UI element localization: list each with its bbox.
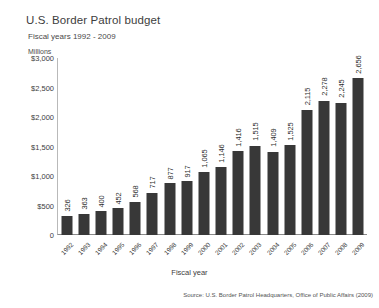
x-tick-slot: 1996 (127, 236, 144, 266)
x-tick-slot: 2005 (281, 236, 298, 266)
bar (130, 202, 141, 236)
x-axis-tick: 2005 (282, 241, 297, 256)
bar (250, 146, 261, 235)
x-tick-slot: 1998 (161, 236, 178, 266)
bar-slot: 400 (92, 58, 109, 235)
x-tick-slot: 2003 (247, 236, 264, 266)
bar (336, 103, 347, 235)
bar-value-label: 1,525 (285, 122, 294, 140)
bar (181, 181, 192, 235)
x-tick-slot: 2007 (316, 236, 333, 266)
x-axis-tick: 1999 (179, 241, 194, 256)
bar (301, 110, 312, 235)
x-tick-slot: 1997 (144, 236, 161, 266)
bar-series: 3263634004525687178779171,0651,1461,4161… (58, 58, 367, 235)
x-axis-tick: 1996 (128, 241, 143, 256)
bar-value-label: 2,245 (337, 79, 346, 97)
x-tick-slot: 1995 (110, 236, 127, 266)
bar-slot: 1,065 (195, 58, 212, 235)
x-tick-slot: 2008 (333, 236, 350, 266)
bar-value-label: 877 (165, 167, 174, 179)
bar (319, 101, 330, 235)
bar-slot: 877 (161, 58, 178, 235)
x-axis-tick: 2000 (196, 241, 211, 256)
bar-slot: 2,656 (350, 58, 367, 235)
x-axis-tick: 2004 (265, 241, 280, 256)
bar (113, 208, 124, 235)
x-axis: 1992199319941995199619971998199920002001… (58, 236, 367, 266)
x-tick-slot: 1994 (92, 236, 109, 266)
chart-subtitle: Fiscal years 1992 - 2009 (28, 32, 116, 41)
x-axis-tick: 1993 (76, 241, 91, 256)
bar-slot: 2,278 (316, 58, 333, 235)
bar (233, 151, 244, 235)
x-tick-slot: 1993 (75, 236, 92, 266)
bar-value-label: 2,656 (354, 55, 363, 73)
x-axis-tick: 2007 (316, 241, 331, 256)
y-axis-tick: $2,500 (8, 83, 54, 92)
bar (164, 183, 175, 235)
bar (284, 145, 295, 235)
bar-slot: 717 (144, 58, 161, 235)
bar-value-label: 400 (96, 196, 105, 208)
bar (78, 214, 89, 235)
bar-slot: 568 (127, 58, 144, 235)
x-tick-slot: 2009 (350, 236, 367, 266)
page-title: U.S. Border Patrol budget (26, 14, 160, 26)
bar-value-label: 717 (148, 177, 157, 189)
chart-page: U.S. Border Patrol budget Fiscal years 1… (0, 0, 379, 308)
bar-slot: 452 (110, 58, 127, 235)
bar-slot: 1,146 (213, 58, 230, 235)
bar-slot: 1,515 (247, 58, 264, 235)
x-axis-tick: 1992 (59, 241, 74, 256)
bar-value-label: 452 (114, 192, 123, 204)
bar-value-label: 2,278 (320, 77, 329, 95)
bar-slot: 326 (58, 58, 75, 235)
bar-value-label: 2,115 (302, 87, 311, 105)
x-axis-title: Fiscal year (0, 268, 379, 277)
bar (216, 167, 227, 235)
bar-slot: 2,245 (333, 58, 350, 235)
bar-value-label: 1,065 (199, 149, 208, 167)
x-axis-tick: 1997 (145, 241, 160, 256)
bar-value-label: 363 (79, 198, 88, 210)
x-axis-tick: 2002 (231, 241, 246, 256)
bar (95, 211, 106, 235)
bar (61, 216, 72, 235)
x-tick-slot: 2001 (213, 236, 230, 266)
x-axis-tick: 2009 (351, 241, 366, 256)
bar-value-label: 568 (131, 186, 140, 198)
bar-slot: 1,409 (264, 58, 281, 235)
bar (267, 152, 278, 235)
x-axis-tick: 1994 (93, 241, 108, 256)
bar-value-label: 1,409 (268, 129, 277, 147)
bar (353, 78, 364, 235)
x-tick-slot: 1999 (178, 236, 195, 266)
source-note: Source: U.S. Border Patrol Headquarters,… (0, 292, 373, 298)
bar (198, 172, 209, 235)
x-tick-slot: 1992 (58, 236, 75, 266)
bar-slot: 1,525 (281, 58, 298, 235)
bar-slot: 2,115 (298, 58, 315, 235)
bar-slot: 917 (178, 58, 195, 235)
x-axis-tick: 2003 (248, 241, 263, 256)
x-tick-slot: 2000 (195, 236, 212, 266)
bar-slot: 363 (75, 58, 92, 235)
x-axis-tick: 2006 (299, 241, 314, 256)
x-axis-tick: 1995 (110, 241, 125, 256)
x-axis-tick: 1998 (162, 241, 177, 256)
y-axis-tick: $1,000 (8, 172, 54, 181)
bar-value-label: 917 (182, 165, 191, 177)
bar-value-label: 1,416 (234, 128, 243, 146)
y-axis-tick: $2,000 (8, 113, 54, 122)
bar (147, 193, 158, 235)
y-axis-tick: $1,500 (8, 142, 54, 151)
y-axis-tick: $500 (8, 201, 54, 210)
x-axis-tick: 2001 (213, 241, 228, 256)
x-tick-slot: 2002 (230, 236, 247, 266)
x-tick-slot: 2006 (298, 236, 315, 266)
x-axis-tick: 2008 (334, 241, 349, 256)
x-tick-slot: 2004 (264, 236, 281, 266)
y-axis-tick: $3,000 (8, 54, 54, 63)
bar-value-label: 1,515 (251, 122, 260, 140)
